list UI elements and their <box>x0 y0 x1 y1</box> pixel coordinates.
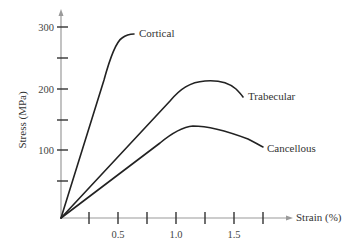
stress-strain-chart: 300 200 100 Stress (MPa) 0.5 1.0 1.5 Str… <box>0 0 353 248</box>
x-axis: 0.5 1.0 1.5 Strain (%) <box>61 211 342 240</box>
y-axis: 300 200 100 Stress (MPa) <box>16 9 68 217</box>
y-tick-label-200: 200 <box>38 84 54 95</box>
x-tick-label-0.5: 0.5 <box>111 229 124 240</box>
x-tick-label-1.5: 1.5 <box>227 229 240 240</box>
series-label-cancellous: Cancellous <box>267 142 316 154</box>
y-ticks <box>57 27 68 181</box>
cancellous-curve <box>61 126 263 218</box>
y-tick-label-300: 300 <box>38 22 54 33</box>
y-tick-label-100: 100 <box>38 145 54 156</box>
series-label-cortical: Cortical <box>139 27 174 39</box>
x-tick-label-1.0: 1.0 <box>169 229 182 240</box>
curves <box>61 34 263 218</box>
x-axis-label: Strain (%) <box>296 211 342 224</box>
y-axis-label: Stress (MPa) <box>16 91 29 148</box>
y-axis-arrow-icon <box>59 9 64 16</box>
x-axis-arrow-icon <box>286 216 293 221</box>
series-label-trabecular: Trabecular <box>248 90 296 102</box>
